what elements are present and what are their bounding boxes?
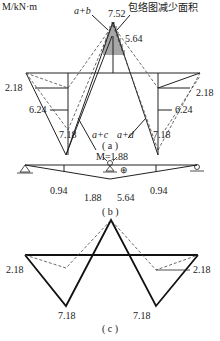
- envelope-note: 包络图减少面积: [128, 3, 198, 13]
- label-a-plus-b: a+b: [74, 6, 91, 16]
- caption-b: ( b ): [102, 207, 119, 217]
- peak-value: 7.52: [108, 9, 126, 19]
- left-value-2-18: 2.18: [5, 83, 23, 93]
- unit-label: M/kN·m: [2, 2, 37, 12]
- diagram-canvas: [0, 0, 220, 341]
- diagram-c-dashed: [25, 220, 198, 270]
- right-value-7-18: 7.18: [153, 130, 171, 140]
- label-a-plus-c: a+c: [92, 130, 108, 140]
- caption-a: ( a ): [102, 141, 118, 151]
- c-value-bottom-right: 7.18: [133, 311, 151, 321]
- left-value-7-18: 7.18: [59, 130, 77, 140]
- right-value-6-24: 6.24: [175, 105, 193, 115]
- moment-label: M=1.88: [96, 152, 128, 162]
- left-value-6-24: 6.24: [29, 105, 47, 115]
- diagram-a-lines: [26, 15, 200, 155]
- right-peak-value: 5.64: [125, 34, 143, 44]
- caption-c: ( c ): [102, 324, 118, 334]
- b-value-right: 0.94: [150, 186, 168, 196]
- c-value-bottom-left: 7.18: [58, 311, 76, 321]
- c-value-right: 2.18: [193, 265, 211, 275]
- positive-sign: ⊕: [120, 165, 128, 175]
- c-value-left: 2.18: [6, 265, 24, 275]
- b-value-mid-left: 1.88: [84, 193, 102, 203]
- label-a-plus-d: a+d: [117, 130, 134, 140]
- b-value-mid-right: 5.64: [117, 193, 135, 203]
- right-value-2-18: 2.18: [196, 88, 214, 98]
- b-value-left: 0.94: [50, 186, 68, 196]
